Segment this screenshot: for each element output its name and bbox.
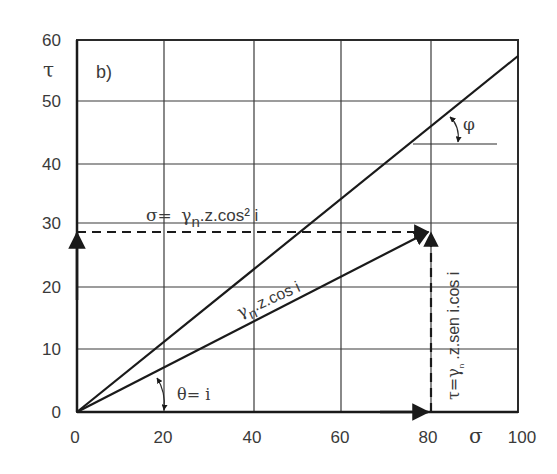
y-tick-0: 0 <box>52 403 61 422</box>
y-tick-40: 40 <box>42 155 61 174</box>
sigma-equation: σ= γn.z.cos² i <box>146 205 258 230</box>
y-tick-labels: 60 50 40 30 20 10 0 <box>42 31 61 422</box>
tau-axis-label: τ <box>43 58 54 82</box>
y-tick-10: 10 <box>42 340 61 359</box>
y-tick-20: 20 <box>42 278 61 297</box>
svg-text:τ=γn.z.sen i.cos i: τ=γn.z.sen i.cos i <box>444 272 466 400</box>
tau-equation-rhs: .z.sen i.cos i <box>445 272 462 360</box>
theta-label: θ= i <box>177 385 210 404</box>
sigma-axis-label: σ <box>469 424 483 448</box>
x-tick-60: 60 <box>331 428 350 447</box>
y-tick-30: 30 <box>42 214 61 233</box>
x-tick-labels: 0 20 40 60 80 100 <box>70 428 536 447</box>
phi-angle-arc <box>450 117 458 142</box>
x-tick-80: 80 <box>419 428 438 447</box>
subscript-n: n <box>191 213 199 230</box>
vector-label-rhs: .z.cos i <box>250 278 302 314</box>
shear-normal-stress-chart: 60 50 40 30 20 10 0 0 20 40 60 80 100 τ … <box>0 0 557 474</box>
tau-equation: τ=γn.z.sen i.cos i <box>444 272 466 400</box>
tau-equation-lhs: τ=γ <box>444 368 463 400</box>
sigma-symbol: σ= <box>146 205 177 225</box>
theta-angle-arc <box>157 378 164 410</box>
subscript-n: n <box>457 364 466 368</box>
phi-label: φ <box>463 114 475 134</box>
gamma-symbol: γ <box>181 205 191 225</box>
x-tick-40: 40 <box>243 428 262 447</box>
y-tick-60: 60 <box>42 31 61 50</box>
x-tick-100: 100 <box>508 428 536 447</box>
y-tick-50: 50 <box>42 92 61 111</box>
panel-label: b) <box>96 62 112 82</box>
x-tick-0: 0 <box>70 428 79 447</box>
svg-text:σ= γn.z.cos² i: σ= γn.z.cos² i <box>146 205 258 230</box>
sigma-equation-rhs: .z.cos² i <box>200 206 259 225</box>
x-tick-20: 20 <box>154 428 173 447</box>
